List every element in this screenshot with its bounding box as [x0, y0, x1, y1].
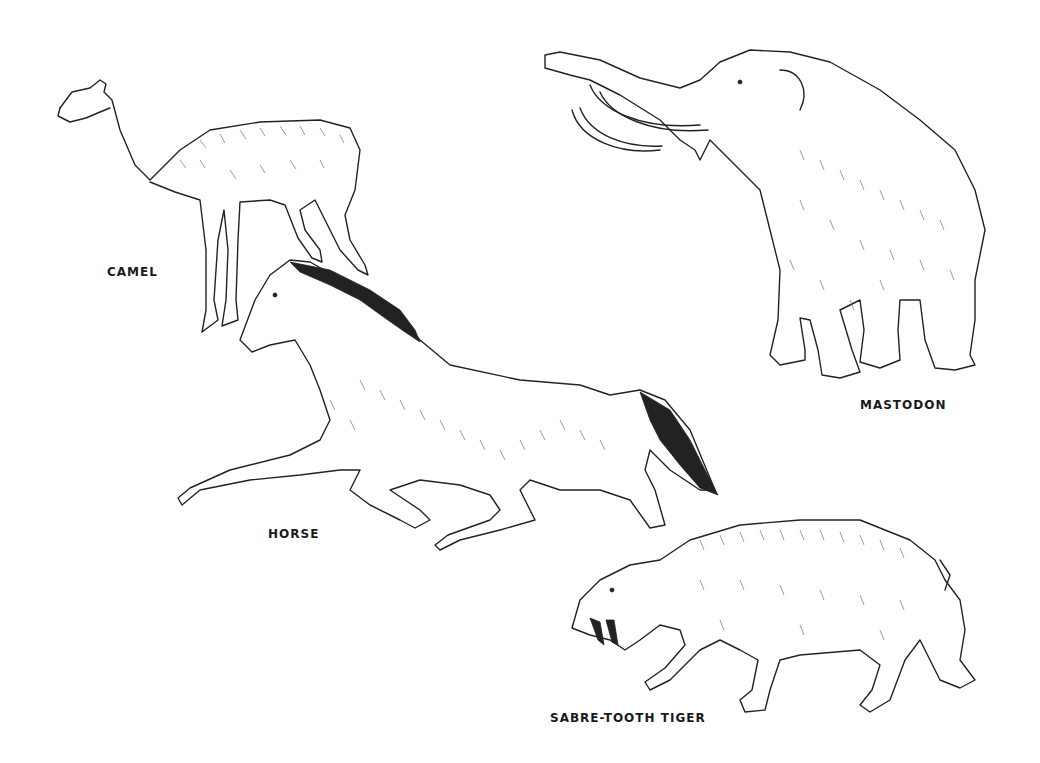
sabre-tooth-tiger-drawing: [572, 520, 975, 712]
mastodon-label: MASTODON: [860, 398, 946, 412]
mastodon-drawing: [545, 50, 985, 378]
camel-drawing: [58, 80, 368, 332]
horse-label: HORSE: [268, 527, 319, 541]
sabre-tooth-tiger-label: SABRE-TOOTH TIGER: [550, 711, 706, 725]
camel-label: CAMEL: [107, 265, 158, 279]
illustration-canvas: [0, 0, 1040, 763]
horse-drawing: [178, 260, 718, 550]
